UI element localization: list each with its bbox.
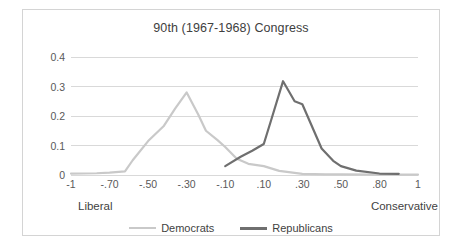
x-tick-label: -1 — [66, 178, 75, 190]
x-tick-label: -.70 — [101, 178, 119, 190]
y-tick-label: 0.2 — [50, 110, 65, 122]
legend-item-democrats[interactable]: Democrats — [129, 222, 214, 234]
legend-label: Republicans — [272, 222, 333, 234]
chart-legend: DemocratsRepublicans — [23, 222, 439, 234]
x-tick-label: 1 — [415, 178, 421, 190]
chart-container: 90th (1967-1968) Congress 0.40.30.20.10 … — [22, 9, 440, 236]
y-axis: 0.40.30.20.10 — [31, 57, 65, 175]
x-tick-label: .50 — [334, 178, 349, 190]
x-tick-label: -.30 — [178, 178, 196, 190]
legend-item-republicans[interactable]: Republicans — [240, 222, 333, 234]
x-tick-label: .80 — [372, 178, 387, 190]
plot-svg — [71, 57, 418, 175]
liberal-pole-label: Liberal — [78, 200, 113, 212]
plot-area — [71, 57, 418, 175]
y-tick-label: 0.4 — [50, 51, 65, 63]
series-line-democrats — [71, 92, 418, 174]
x-axis: -1-.70-.50-.30-.10.10.30.50.801 — [71, 178, 418, 194]
x-tick-label: .30 — [295, 178, 310, 190]
y-tick-label: 0.3 — [50, 81, 65, 93]
conservative-pole-label: Conservative — [371, 200, 438, 212]
series-line-republicans — [225, 81, 399, 174]
x-tick-label: -.50 — [139, 178, 157, 190]
x-tick-label: -.10 — [216, 178, 234, 190]
chart-title: 90th (1967-1968) Congress — [23, 21, 439, 35]
y-tick-label: 0.1 — [50, 140, 65, 152]
x-tick-label: .10 — [256, 178, 271, 190]
axis-annotations: Liberal Conservative — [53, 200, 443, 218]
legend-swatch-republicans — [240, 227, 267, 230]
y-tick-label: 0 — [59, 169, 65, 181]
legend-swatch-democrats — [129, 227, 156, 229]
legend-label: Democrats — [161, 222, 214, 234]
